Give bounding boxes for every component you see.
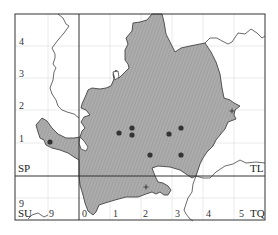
grid-label-tl: TL <box>250 163 263 174</box>
easting-label: 2 <box>143 209 148 219</box>
easting-label: 0 <box>82 209 87 219</box>
easting-label: 3 <box>175 209 180 219</box>
easting-label: 9 <box>49 209 54 219</box>
record-dot <box>47 139 52 144</box>
grid-label-sp: SP <box>18 163 30 174</box>
boundary-line <box>50 14 79 118</box>
record-dot <box>166 131 171 136</box>
northing-label: 2 <box>19 101 24 111</box>
record-dot <box>129 132 134 137</box>
record-dot <box>116 130 121 135</box>
grid-label-tq: TQ <box>250 208 265 219</box>
grid-label-su: SU <box>18 208 32 219</box>
record-dot <box>178 125 183 130</box>
shaded-region <box>36 14 240 215</box>
map-canvas <box>0 0 278 235</box>
easting-label: 4 <box>206 209 211 219</box>
record-dot <box>178 152 183 157</box>
boundary-line <box>205 29 265 44</box>
record-dot <box>147 152 152 157</box>
northing-label: 4 <box>19 37 24 47</box>
distribution-map: SP TL SU TQ 4 3 2 1 9 9 0 1 2 3 4 5 <box>0 0 278 235</box>
northing-label: 3 <box>19 69 24 79</box>
river-line <box>184 176 196 221</box>
easting-label: 5 <box>239 209 244 219</box>
northing-label: 1 <box>19 134 24 144</box>
northing-label: 9 <box>19 199 24 209</box>
record-dot <box>129 125 134 130</box>
easting-label: 1 <box>113 209 118 219</box>
